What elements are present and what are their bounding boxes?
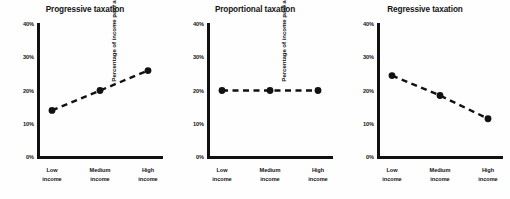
chart-title: Proportional taxation [170,5,340,14]
y-axis-tick-label: 0% [366,154,374,160]
x-axis-tick-label-line: High [120,166,176,175]
data-point-marker [389,72,396,79]
series-line [52,71,148,111]
data-point-marker [219,87,226,94]
y-axis-tick-label: 40% [363,21,374,27]
data-point-marker [485,115,492,122]
data-point-marker [267,87,274,94]
data-point-marker [315,87,322,94]
x-axis-tick-label-line: income [120,175,176,184]
y-axis-line [377,23,380,159]
data-point-marker [97,87,104,94]
x-axis-line [377,156,503,159]
x-axis-tick-label-line: High [460,166,510,175]
x-axis-tick-label: Highincome [120,166,176,183]
y-axis-tick-label: 0% [26,154,34,160]
y-axis-tick-label: 30% [23,54,34,60]
y-axis-tick-label: 30% [363,54,374,60]
y-axis-line [207,23,210,159]
chart-panel: Regressive taxationPercentage of income … [340,0,510,199]
y-axis-tick-label: 30% [193,54,204,60]
x-axis-tick-label: Highincome [460,166,510,183]
x-axis-tick-label-line: income [290,175,346,184]
y-axis-label: Percentage of income paid as taxation [108,0,119,95]
taxation-charts-figure: Progressive taxationPercentage of income… [0,0,510,199]
y-axis-tick-label: 20% [363,88,374,94]
x-axis-tick-label: Highincome [290,166,346,183]
chart-title: Regressive taxation [340,5,510,14]
y-axis-tick-label: 40% [23,21,34,27]
data-point-marker [49,107,56,114]
x-axis-tick-label-line: income [460,175,510,184]
data-point-marker [145,67,152,74]
y-axis-tick-label: 0% [196,154,204,160]
y-axis-tick-label: 10% [193,121,204,127]
y-axis-tick-label: 10% [23,121,34,127]
series-line [392,76,488,119]
x-axis-line [207,156,333,159]
y-axis-tick-label: 10% [363,121,374,127]
y-axis-tick-label: 40% [193,21,204,27]
x-axis-tick-label-line: High [290,166,346,175]
y-axis-line [37,23,40,159]
chart-panel: Progressive taxationPercentage of income… [0,0,170,199]
data-point-marker [437,92,444,99]
chart-title: Progressive taxation [0,5,170,14]
y-axis-tick-label: 20% [23,88,34,94]
x-axis-line [37,156,163,159]
y-axis-tick-label: 20% [193,88,204,94]
chart-panel: Proportional taxationPercentage of incom… [170,0,340,199]
y-axis-label: Percentage of income paid as taxation [278,0,289,95]
